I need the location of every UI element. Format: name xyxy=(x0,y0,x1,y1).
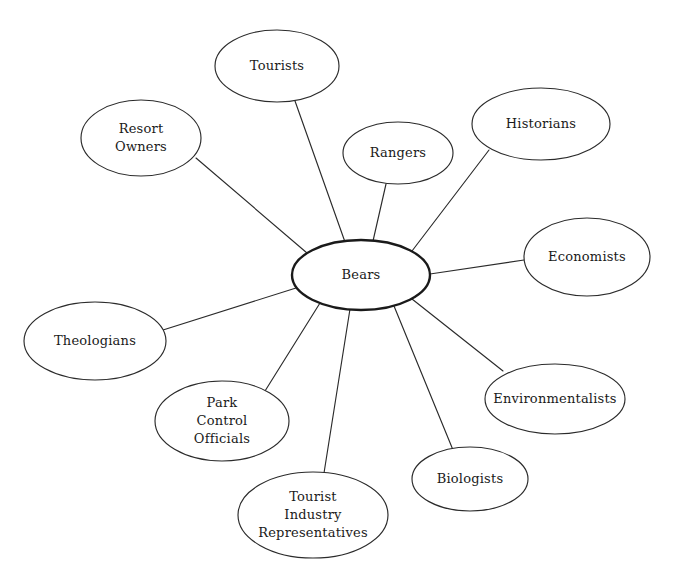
node-label-line: Park xyxy=(207,394,238,409)
node-theologians[interactable]: Theologians xyxy=(24,302,166,380)
diagram-canvas: TouristsResortOwnersRangersHistoriansEco… xyxy=(0,0,679,588)
mind-map-svg: TouristsResortOwnersRangersHistoriansEco… xyxy=(0,0,679,588)
node-label-economists: Economists xyxy=(548,249,626,264)
edge-bears-to-economists xyxy=(430,260,524,274)
node-label-biologists: Biologists xyxy=(437,471,504,486)
node-label-line: Economists xyxy=(548,249,626,264)
node-label-line: Officials xyxy=(194,431,250,446)
node-label-rangers: Rangers xyxy=(370,145,427,160)
node-label-line: Theologians xyxy=(54,333,136,348)
node-environmentalists[interactable]: Environmentalists xyxy=(485,364,625,434)
node-label-historians: Historians xyxy=(506,116,576,131)
node-label-line: Representatives xyxy=(258,525,368,540)
node-label-tourists: Tourists xyxy=(250,58,304,73)
node-label-line: Bears xyxy=(342,267,381,282)
node-label-bears: Bears xyxy=(342,267,381,282)
node-label-line: Control xyxy=(197,413,248,428)
node-historians[interactable]: Historians xyxy=(472,88,610,160)
node-rangers[interactable]: Rangers xyxy=(343,122,453,184)
edge-bears-to-tourists xyxy=(295,101,345,242)
node-label-line: Tourists xyxy=(250,58,304,73)
node-biologists[interactable]: Biologists xyxy=(412,447,528,511)
node-label-environmentalists: Environmentalists xyxy=(493,391,616,406)
node-economists[interactable]: Economists xyxy=(524,218,650,296)
node-label-line: Tourist xyxy=(289,488,337,503)
node-label-line: Historians xyxy=(506,116,576,131)
edge-bears-to-theologians xyxy=(163,288,296,330)
node-label-line: Environmentalists xyxy=(493,391,616,406)
edge-bears-to-environmentalists xyxy=(412,299,503,371)
node-tourist-industry-representatives[interactable]: TouristIndustryRepresentatives xyxy=(238,472,388,558)
node-bears[interactable]: Bears xyxy=(292,240,430,310)
central-node-layer: Bears xyxy=(292,240,430,310)
edge-bears-to-biologists xyxy=(394,306,453,450)
node-label-line: Rangers xyxy=(370,145,427,160)
node-label-theologians: Theologians xyxy=(54,333,136,348)
edge-bears-to-rangers xyxy=(373,184,386,241)
node-park-control-officials[interactable]: ParkControlOfficials xyxy=(155,381,289,461)
node-label-line: Resort xyxy=(119,120,164,135)
edge-bears-to-park-control-officials xyxy=(265,303,320,391)
edge-bears-to-tourist-industry-representatives xyxy=(324,309,350,473)
node-label-line: Industry xyxy=(284,507,342,522)
node-tourists[interactable]: Tourists xyxy=(215,30,339,102)
node-resort-owners[interactable]: ResortOwners xyxy=(81,100,201,176)
node-label-line: Owners xyxy=(115,139,167,154)
node-label-line: Biologists xyxy=(437,471,504,486)
edge-bears-to-resort-owners xyxy=(196,158,307,253)
